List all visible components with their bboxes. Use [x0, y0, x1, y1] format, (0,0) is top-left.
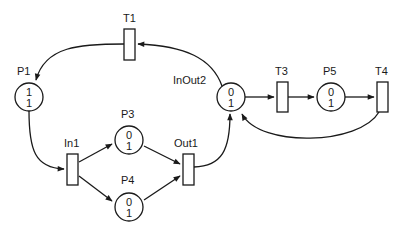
transition-label: Out1	[174, 137, 198, 149]
arc-p4-to-out1	[144, 176, 180, 200]
petri-net-diagram: T1In1Out1T3T4 P111P301P401InOut201P501	[0, 0, 404, 233]
arc-in1-to-p4	[79, 176, 112, 201]
transition-bar[interactable]	[377, 82, 388, 112]
place-token-bottom: 1	[26, 97, 32, 109]
place-label: InOut2	[173, 74, 206, 86]
transition-t3[interactable]: T3	[275, 65, 288, 112]
place-token-bottom: 1	[126, 207, 132, 219]
transition-bar[interactable]	[183, 154, 194, 185]
arc-in1-to-p3	[79, 144, 112, 162]
place-p3[interactable]: P301	[115, 108, 143, 154]
transition-label: In1	[64, 137, 79, 149]
place-label: P3	[121, 108, 134, 120]
place-label: P5	[323, 65, 336, 77]
arc-p1-to-in1	[29, 111, 64, 169]
place-token-bottom: 1	[228, 97, 234, 109]
arc-out1-to-inout2	[194, 114, 230, 167]
place-label: P1	[17, 65, 30, 77]
transition-in1[interactable]: In1	[64, 137, 79, 185]
transition-t4[interactable]: T4	[375, 65, 388, 112]
transition-bar[interactable]	[67, 154, 78, 185]
place-token-bottom: 1	[126, 140, 132, 152]
transition-bar[interactable]	[124, 29, 135, 60]
place-p5[interactable]: P501	[317, 65, 345, 111]
transition-label: T1	[123, 12, 136, 24]
place-p4[interactable]: P401	[115, 174, 143, 221]
place-inout2[interactable]: InOut201	[173, 74, 245, 111]
arc-t4-to-inout2	[242, 112, 379, 138]
transition-bar[interactable]	[277, 82, 288, 112]
place-label: P4	[121, 174, 134, 186]
transition-t1[interactable]: T1	[123, 12, 136, 60]
arc-t1-to-p1	[36, 44, 124, 80]
transition-label: T3	[275, 65, 288, 77]
transition-label: T4	[375, 65, 388, 77]
place-token-bottom: 1	[328, 97, 334, 109]
